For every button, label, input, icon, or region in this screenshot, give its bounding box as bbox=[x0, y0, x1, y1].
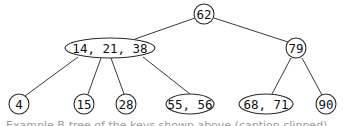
tree-node-n-15: 15 bbox=[74, 94, 94, 114]
tree-node-n-90: 90 bbox=[316, 94, 336, 114]
tree-node-n-4: 4 bbox=[9, 94, 29, 114]
node-label: 14, 21, 38 bbox=[72, 41, 147, 56]
tree-node-n-14-21-38: 14, 21, 38 bbox=[65, 38, 155, 58]
node-label: 55, 56 bbox=[167, 97, 212, 112]
node-label: 68, 71 bbox=[243, 97, 288, 112]
tree-edge bbox=[135, 18, 195, 39]
tree-node-root: 62 bbox=[194, 4, 214, 24]
tree-node-n-55-56: 55, 56 bbox=[166, 94, 214, 114]
tree-edges bbox=[25, 18, 322, 96]
tree-node-n-68-71: 68, 71 bbox=[239, 94, 293, 114]
node-label: 28 bbox=[118, 97, 133, 112]
figure-caption: Example B-tree of the keys shown above (… bbox=[6, 119, 346, 126]
tree-edge bbox=[143, 57, 190, 94]
tree-edge bbox=[25, 57, 78, 96]
tree-edge bbox=[272, 58, 291, 94]
node-label: 4 bbox=[15, 97, 23, 112]
tree-edge bbox=[111, 58, 124, 94]
node-label: 15 bbox=[76, 97, 91, 112]
tree-edge bbox=[88, 58, 101, 94]
node-label: 90 bbox=[318, 97, 333, 112]
tree-edge bbox=[214, 18, 288, 42]
tree-nodes: 6214, 21, 38794152855, 5668, 7190 bbox=[9, 4, 336, 114]
tree-edge bbox=[302, 58, 322, 95]
node-label: 62 bbox=[196, 7, 211, 22]
tree-node-n-79: 79 bbox=[286, 38, 306, 58]
b-tree-diagram: 6214, 21, 38794152855, 5668, 7190 bbox=[0, 0, 348, 126]
tree-node-n-28: 28 bbox=[116, 94, 136, 114]
node-label: 79 bbox=[288, 41, 303, 56]
